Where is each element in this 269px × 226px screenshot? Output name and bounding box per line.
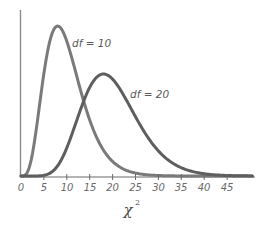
- tick-label: 0: [18, 182, 24, 193]
- curve-label-df-20: df = 20: [130, 88, 170, 100]
- tick-label: 35: [175, 182, 188, 193]
- tick-label: 15: [84, 182, 97, 193]
- tick-label: 40: [198, 182, 211, 193]
- tick-label: 5: [41, 182, 47, 193]
- curve-df-10: [21, 26, 252, 176]
- tick-label: 45: [221, 182, 234, 193]
- chi-square-chart: 0 5 10 15 20 25 30 35 40 45 df = 10 df =…: [0, 0, 269, 226]
- tick-label: 25: [129, 182, 142, 193]
- x-axis-title: χ: [122, 201, 133, 219]
- tick-label: 20: [106, 182, 119, 193]
- tick-label: 10: [61, 182, 74, 193]
- x-axis-title-superscript: 2: [135, 198, 140, 207]
- curve-label-df-10: df = 10: [72, 37, 112, 49]
- x-axis-tick-labels: 0 5 10 15 20 25 30 35 40 45: [18, 182, 234, 193]
- tick-label: 30: [152, 182, 165, 193]
